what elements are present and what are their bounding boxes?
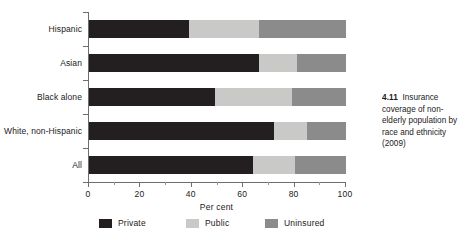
- x-tick-20: [139, 182, 140, 187]
- bar-segment-private: [89, 156, 253, 174]
- category-label-asian: Asian: [0, 58, 82, 68]
- y-tick-0: [83, 12, 88, 13]
- legend-swatch-private: [99, 219, 112, 228]
- bar-segment-public: [274, 122, 307, 140]
- bar-segment-uninsured: [297, 54, 346, 72]
- x-tick-label-0: 0: [86, 189, 91, 199]
- figure-4-11: 020406080100 Per cent HispanicAsianBlack…: [0, 0, 465, 246]
- bar-segment-private: [89, 54, 259, 72]
- bar-segment-private: [89, 88, 215, 106]
- bar-segment-public: [215, 88, 292, 106]
- x-minor-tick-90: [319, 182, 320, 185]
- legend-label-uninsured: Uninsured: [284, 218, 325, 228]
- legend-swatch-public: [186, 219, 199, 228]
- bar-segment-uninsured: [307, 122, 346, 140]
- x-axis-title: Per cent: [88, 202, 345, 212]
- x-tick-label-60: 60: [237, 189, 247, 199]
- legend-item-private: Private: [99, 218, 146, 228]
- bar-segment-public: [259, 54, 298, 72]
- category-label-white-non-hispanic: White, non-Hispanic: [0, 126, 82, 136]
- category-label-all: All: [0, 160, 82, 170]
- figure-number: 4.11: [382, 93, 398, 102]
- bar-segment-uninsured: [295, 156, 346, 174]
- bar-segment-uninsured: [292, 88, 346, 106]
- figure-caption: 4.11 Insurance coverage of non-elderly p…: [382, 92, 464, 150]
- x-tick-label-80: 80: [289, 189, 299, 199]
- plot-area: 020406080100 Per cent: [88, 12, 345, 182]
- legend-swatch-uninsured: [265, 219, 278, 228]
- x-tick-label-40: 40: [186, 189, 196, 199]
- y-tick-2: [83, 80, 88, 81]
- x-minor-tick-30: [165, 182, 166, 185]
- x-tick-80: [294, 182, 295, 187]
- category-label-hispanic: Hispanic: [0, 24, 82, 34]
- x-tick-0: [88, 182, 89, 187]
- bar-segment-private: [89, 122, 274, 140]
- bar-segment-private: [89, 20, 189, 38]
- legend-item-uninsured: Uninsured: [265, 218, 325, 228]
- x-minor-tick-70: [268, 182, 269, 185]
- x-tick-40: [191, 182, 192, 187]
- x-minor-tick-50: [217, 182, 218, 185]
- category-label-black-alone: Black alone: [0, 92, 82, 102]
- x-minor-tick-10: [114, 182, 115, 185]
- legend-label-private: Private: [118, 218, 146, 228]
- x-tick-60: [242, 182, 243, 187]
- legend-item-public: Public: [186, 218, 229, 228]
- x-tick-label-100: 100: [338, 189, 353, 199]
- bar-segment-public: [253, 156, 294, 174]
- chart-legend: PrivatePublicUninsured: [0, 218, 465, 236]
- x-tick-100: [345, 182, 346, 187]
- bar-segment-uninsured: [259, 20, 346, 38]
- y-tick-3: [83, 114, 88, 115]
- y-tick-4: [83, 148, 88, 149]
- x-tick-label-20: 20: [134, 189, 144, 199]
- legend-label-public: Public: [205, 218, 229, 228]
- bar-segment-public: [189, 20, 258, 38]
- y-tick-1: [83, 46, 88, 47]
